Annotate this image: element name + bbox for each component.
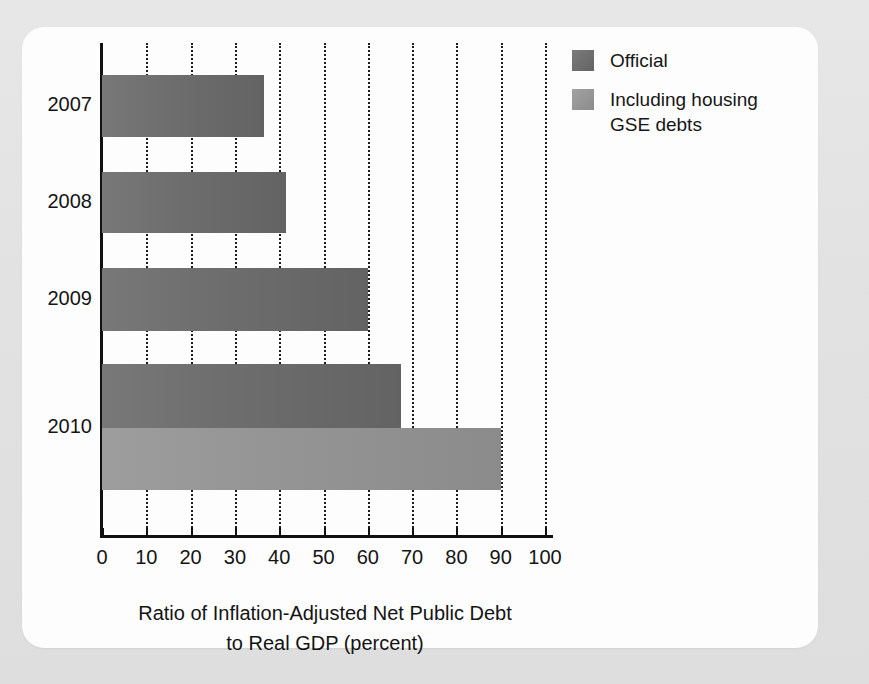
legend-item-gse: Including housing GSE debts [572,87,802,137]
bar-2007-official [102,75,264,137]
x-axis-line [100,535,553,538]
legend-label-gse: Including housing GSE debts [610,87,785,137]
x-tick-40 [279,528,281,537]
bar-2009-official [102,268,368,331]
x-tick-60 [368,528,370,537]
legend-swatch-gse-icon [572,89,594,110]
legend-item-official: Official [572,48,802,73]
bar-2010-official [102,364,401,428]
y-axis-label-2007: 2007 [12,93,92,116]
bar-2008-official [102,172,286,233]
y-axis-label-2009: 2009 [12,287,92,310]
bar-2010-gse [102,428,501,490]
x-axis-title-line-1: Ratio of Inflation-Adjusted Net Public D… [60,598,590,628]
x-axis-title: Ratio of Inflation-Adjusted Net Public D… [60,598,590,658]
x-tick-20 [191,528,193,537]
x-tick-50 [324,528,326,537]
x-tick-80 [456,528,458,537]
x-axis-title-line-2: to Real GDP (percent) [60,628,590,658]
chart-page: 0102030405060708090100 2007200820092010 … [0,0,869,684]
gridline-100 [545,43,547,535]
x-tick-90 [501,528,503,537]
plot-area [102,43,545,535]
y-axis-label-2010: 2010 [12,415,92,438]
x-tick-100 [545,528,547,537]
x-tick-30 [235,528,237,537]
x-tick-0 [102,528,104,537]
y-axis-label-2008: 2008 [12,190,92,213]
x-tick-70 [412,528,414,537]
legend-swatch-official-icon [572,50,594,71]
legend-label-official: Official [610,48,668,73]
chart-legend: Official Including housing GSE debts [572,48,802,151]
x-tick-10 [146,528,148,537]
x-tick-label-100: 100 [515,546,575,569]
gridline-90 [501,43,503,535]
y-axis-category-labels: 2007200820092010 [8,0,92,684]
